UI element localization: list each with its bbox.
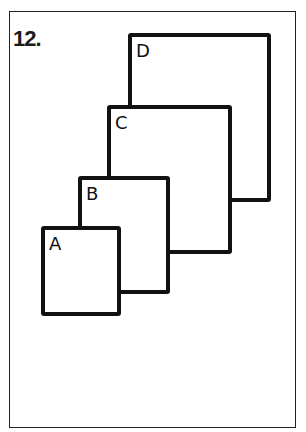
nested-squares-diagram: DCBA — [0, 0, 306, 432]
square-label-b: B — [86, 183, 98, 204]
square-label-a: A — [49, 233, 62, 254]
square-label-d: D — [136, 40, 150, 61]
square-label-c: C — [115, 112, 128, 133]
